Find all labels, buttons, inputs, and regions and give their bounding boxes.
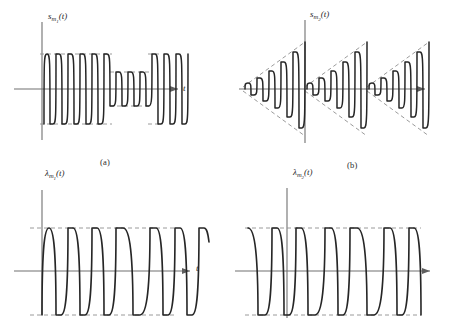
panel-sm1-plot (0, 0, 225, 150)
waveform-sm2-ramp2 (307, 42, 367, 128)
waveform-sm2-ramp1 (245, 42, 305, 128)
signal-label-sm2: sm2(t) (310, 10, 329, 21)
panel-lambda-m1-bottom-left: λm1(t) t (0, 160, 225, 325)
time-axis-lambda-m1 (14, 268, 190, 274)
time-axis-lambda-m2 (235, 268, 430, 274)
signal-label-lambda-m2: λm2(t) (293, 168, 313, 179)
signal-label-lambda-m1: λm1(t) (45, 169, 65, 180)
time-axis-sm2 (239, 86, 425, 92)
time-axis-sm1 (14, 86, 178, 92)
panel-sm1-top-left: sm1(t) t (0, 0, 225, 150)
waveform-sm2-ramp3 (369, 42, 429, 128)
panel-lambda-m2-bottom-right: λm2(t) (225, 160, 449, 325)
panel-sm2-top-right: sm2(t) (225, 0, 449, 150)
panel-lambda-m1-plot (0, 160, 225, 325)
time-axis-label-lambda-m1: t (196, 263, 199, 273)
time-axis-label-sm1: t (183, 83, 186, 93)
panel-sm2-plot (225, 0, 449, 150)
signal-label-sm1: sm1(t) (48, 12, 67, 23)
panel-lambda-m2-plot (225, 160, 449, 325)
signal-waveform-figure: sm1(t) t (0, 0, 449, 325)
